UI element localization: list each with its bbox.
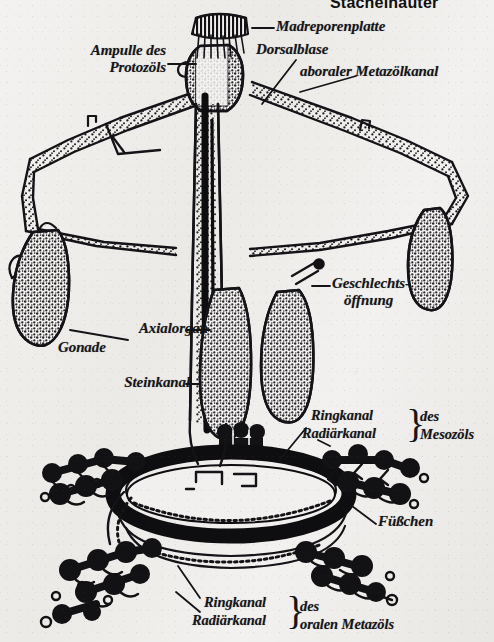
label-ampulle-line2: Protozöls (0, 60, 166, 76)
label-mesocoel-des: des (420, 409, 439, 424)
label-ampulle-line1: Ampulle des (0, 43, 166, 59)
radial-arm-lower-right (295, 541, 397, 605)
canal-spur-left (88, 116, 96, 126)
aboral-metacoel-canal (30, 82, 452, 176)
label-madreporenplatte: Madreporenplatte (276, 19, 385, 35)
label-fuesschen: Füßchen (378, 514, 433, 530)
label-mesocoel-coelom: Mesozöls (420, 427, 474, 442)
label-mesocoel-radiaerkanal: Radiärkanal (302, 426, 376, 441)
label-geschlechtsoeffnung-line1: Geschlechts- (332, 276, 410, 292)
label-oral-radiaerkanal: Radiärkanal (192, 613, 266, 628)
label-steinkanal: Steinkanal (84, 375, 190, 391)
radial-arm-lower-left (41, 538, 162, 627)
label-geschlechtsoeffnung-line2: öffnung (344, 293, 393, 309)
label-oral-des: des (300, 599, 319, 614)
figure-page: Stachelhäuter Madreporenplatte Dorsalbla… (0, 0, 494, 642)
label-mesocoel-ringkanal: Ringkanal (311, 408, 373, 423)
genital-pore (292, 259, 324, 284)
label-axialorgan: Axialorgan (84, 321, 208, 337)
label-gonade: Gonade (58, 340, 106, 356)
label-dorsalblase: Dorsalblase (256, 42, 328, 58)
echinoderm-anatomy-figure (0, 0, 494, 642)
label-oral-ringkanal: Ringkanal (204, 595, 266, 610)
label-oral-coelom: oralen Metazöls (300, 617, 394, 632)
label-aboraler-metazoelkanal: aboraler Metazölkanal (300, 64, 438, 80)
page-title: Stachelhäuter (330, 0, 438, 12)
